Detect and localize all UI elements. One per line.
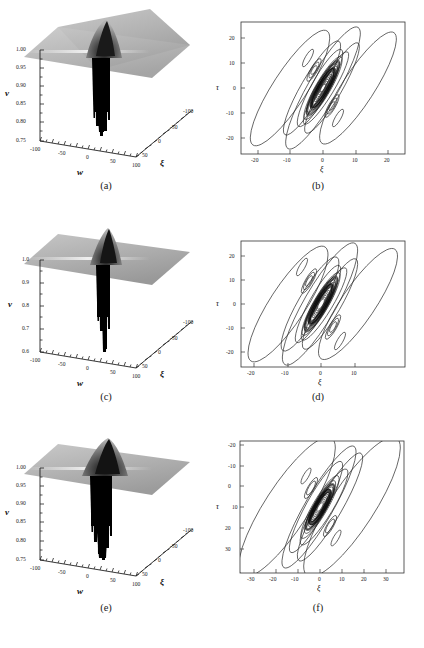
xi-tick-e-3: -100 — [183, 527, 193, 533]
y-tick-f-4: 20 — [225, 525, 231, 531]
xi-tick-e-1: 0 — [158, 557, 161, 563]
x-tick-d-1: -10 — [281, 370, 288, 376]
axis-v-ticks-a — [40, 50, 44, 141]
axis-label-v-a: v — [5, 88, 9, 98]
xi-tick-c-3: -100 — [183, 319, 193, 325]
w-tick-a-1: -50 — [58, 150, 65, 156]
y-tick-f-5: 30 — [225, 546, 231, 552]
v-tick-a-2: 0.85 — [16, 100, 26, 106]
xi-tick-e-2: -50 — [170, 543, 177, 549]
xi-tick-c-1: 0 — [158, 349, 161, 355]
x-tick-b-2: 0 — [321, 157, 324, 163]
axis-label-xi-d: ξ — [318, 378, 321, 387]
surface-spikes-a — [92, 58, 110, 136]
xi-tick-c-2: -50 — [170, 335, 177, 341]
figure-row-3: 1.00 0.95 0.90 0.85 0.80 0.75 v -100 -50… — [0, 410, 424, 626]
v-tick-e-2: 0.85 — [16, 518, 26, 524]
surface-plot-e-canvas — [0, 410, 212, 610]
y-tick-f-0: -20 — [228, 442, 235, 448]
y-tick-b-4: -20 — [226, 135, 233, 141]
panel-d: -20 -10 0 10 ξ 20 10 0 -10 -20 τ (d) — [212, 207, 424, 423]
x-tick-b-0: -20 — [251, 157, 258, 163]
axis-label-xi-c: ξ — [160, 369, 164, 379]
surface-plot-c: 1.0 0.9 0.8 0.7 0.6 v -100 -50 0 50 100 … — [0, 207, 212, 407]
y-tick-b-0: 20 — [229, 35, 235, 41]
y-tick-b-2: 0 — [233, 85, 236, 91]
axis-label-xi-f: ξ — [317, 584, 320, 593]
v-tick-c-4: 1.0 — [22, 256, 29, 262]
x-tick-f-1: -20 — [269, 576, 276, 582]
y-tick-d-4: -20 — [226, 349, 233, 355]
y-tick-b-3: -10 — [226, 110, 233, 116]
v-tick-a-3: 0.90 — [16, 82, 26, 88]
contour-plot-f: -30 -20 -10 0 10 20 30 ξ -20 -10 0 10 20… — [212, 410, 424, 610]
xi-tick-e-0: 50 — [142, 571, 148, 577]
w-tick-c-1: -50 — [58, 361, 65, 367]
v-tick-a-1: 0.80 — [16, 118, 26, 124]
y-tick-f-2: 0 — [228, 483, 231, 489]
figure-row-1: 1.00 0.95 0.90 0.85 0.80 0.75 v -100 -50… — [0, 0, 424, 216]
axis-label-xi-e: ξ — [160, 577, 164, 587]
surface-plot-c-canvas — [0, 207, 212, 407]
v-tick-e-5: 1.00 — [16, 464, 26, 470]
surface-spikes-e — [90, 476, 112, 560]
x-tick-b-4: 20 — [384, 157, 390, 163]
w-tick-e-3: 50 — [110, 577, 116, 583]
x-tick-d-0: -20 — [247, 370, 254, 376]
caption-b: (b) — [212, 180, 424, 191]
xi-tick-a-0: 50 — [142, 152, 148, 158]
v-tick-e-1: 0.80 — [16, 537, 26, 543]
panel-b: -20 -10 0 10 20 ξ 20 10 0 -10 -20 τ (b) — [212, 0, 424, 216]
x-tick-d-2: 0 — [319, 370, 322, 376]
xi-tick-c-0: 50 — [142, 363, 148, 369]
figure-row-2: 1.0 0.9 0.8 0.7 0.6 v -100 -50 0 50 100 … — [0, 207, 424, 423]
v-tick-e-0: 0.75 — [16, 556, 26, 562]
w-tick-e-1: -50 — [58, 569, 65, 575]
w-tick-c-3: 50 — [110, 369, 116, 375]
w-tick-c-0: -100 — [30, 357, 40, 363]
y-tick-d-0: 20 — [229, 253, 235, 259]
panel-c: 1.0 0.9 0.8 0.7 0.6 v -100 -50 0 50 100 … — [0, 207, 212, 423]
w-tick-c-2: 0 — [86, 365, 89, 371]
surface-spikes-c — [96, 265, 110, 352]
xi-tick-a-1: 0 — [158, 138, 161, 144]
y-tick-b-1: 10 — [229, 60, 235, 66]
axis-label-v-c: v — [8, 299, 12, 309]
w-tick-a-0: -100 — [30, 146, 40, 152]
v-tick-c-2: 0.8 — [22, 302, 29, 308]
panel-f: -30 -20 -10 0 10 20 30 ξ -20 -10 0 10 20… — [212, 410, 424, 626]
y-tick-d-1: 10 — [229, 277, 235, 283]
contour-plot-b: -20 -10 0 10 20 ξ 20 10 0 -10 -20 τ — [212, 0, 424, 200]
x-tick-d-3: 10 — [351, 370, 357, 376]
panel-a: 1.00 0.95 0.90 0.85 0.80 0.75 v -100 -50… — [0, 0, 212, 216]
x-tick-f-5: 20 — [361, 576, 367, 582]
v-tick-a-0: 0.75 — [16, 137, 26, 143]
y-tick-d-2: 0 — [233, 301, 236, 307]
y-tick-d-3: -10 — [226, 325, 233, 331]
contour-plot-b-canvas — [212, 0, 424, 200]
v-tick-e-4: 0.95 — [16, 482, 26, 488]
w-tick-a-2: 0 — [86, 154, 89, 160]
contour-frame-b — [241, 22, 405, 154]
axis-label-w-a: w — [77, 167, 83, 177]
v-tick-e-3: 0.90 — [16, 500, 26, 506]
w-tick-e-2: 0 — [86, 573, 89, 579]
axis-label-tau-f: τ — [216, 502, 219, 511]
axis-label-xi-a: ξ — [160, 158, 164, 168]
x-tick-f-3: 0 — [318, 576, 321, 582]
surface-plot-a: 1.00 0.95 0.90 0.85 0.80 0.75 v -100 -50… — [0, 0, 212, 200]
caption-d: (d) — [212, 391, 424, 402]
caption-c: (c) — [0, 391, 212, 402]
axis-v-ticks-e — [40, 468, 44, 560]
surface-highlight-streak-c — [26, 257, 150, 260]
v-tick-c-1: 0.7 — [22, 325, 29, 331]
panel-e: 1.00 0.95 0.90 0.85 0.80 0.75 v -100 -50… — [0, 410, 212, 626]
axis-label-v-e: v — [5, 507, 9, 517]
surface-plot-a-canvas — [0, 0, 212, 200]
y-tick-f-1: -10 — [228, 463, 235, 469]
axis-label-tau-b: τ — [216, 83, 219, 92]
axis-label-tau-d: τ — [216, 299, 219, 308]
axis-label-w-c: w — [77, 378, 83, 388]
v-tick-a-5: 1.00 — [16, 46, 26, 52]
x-tick-f-0: -30 — [247, 576, 254, 582]
